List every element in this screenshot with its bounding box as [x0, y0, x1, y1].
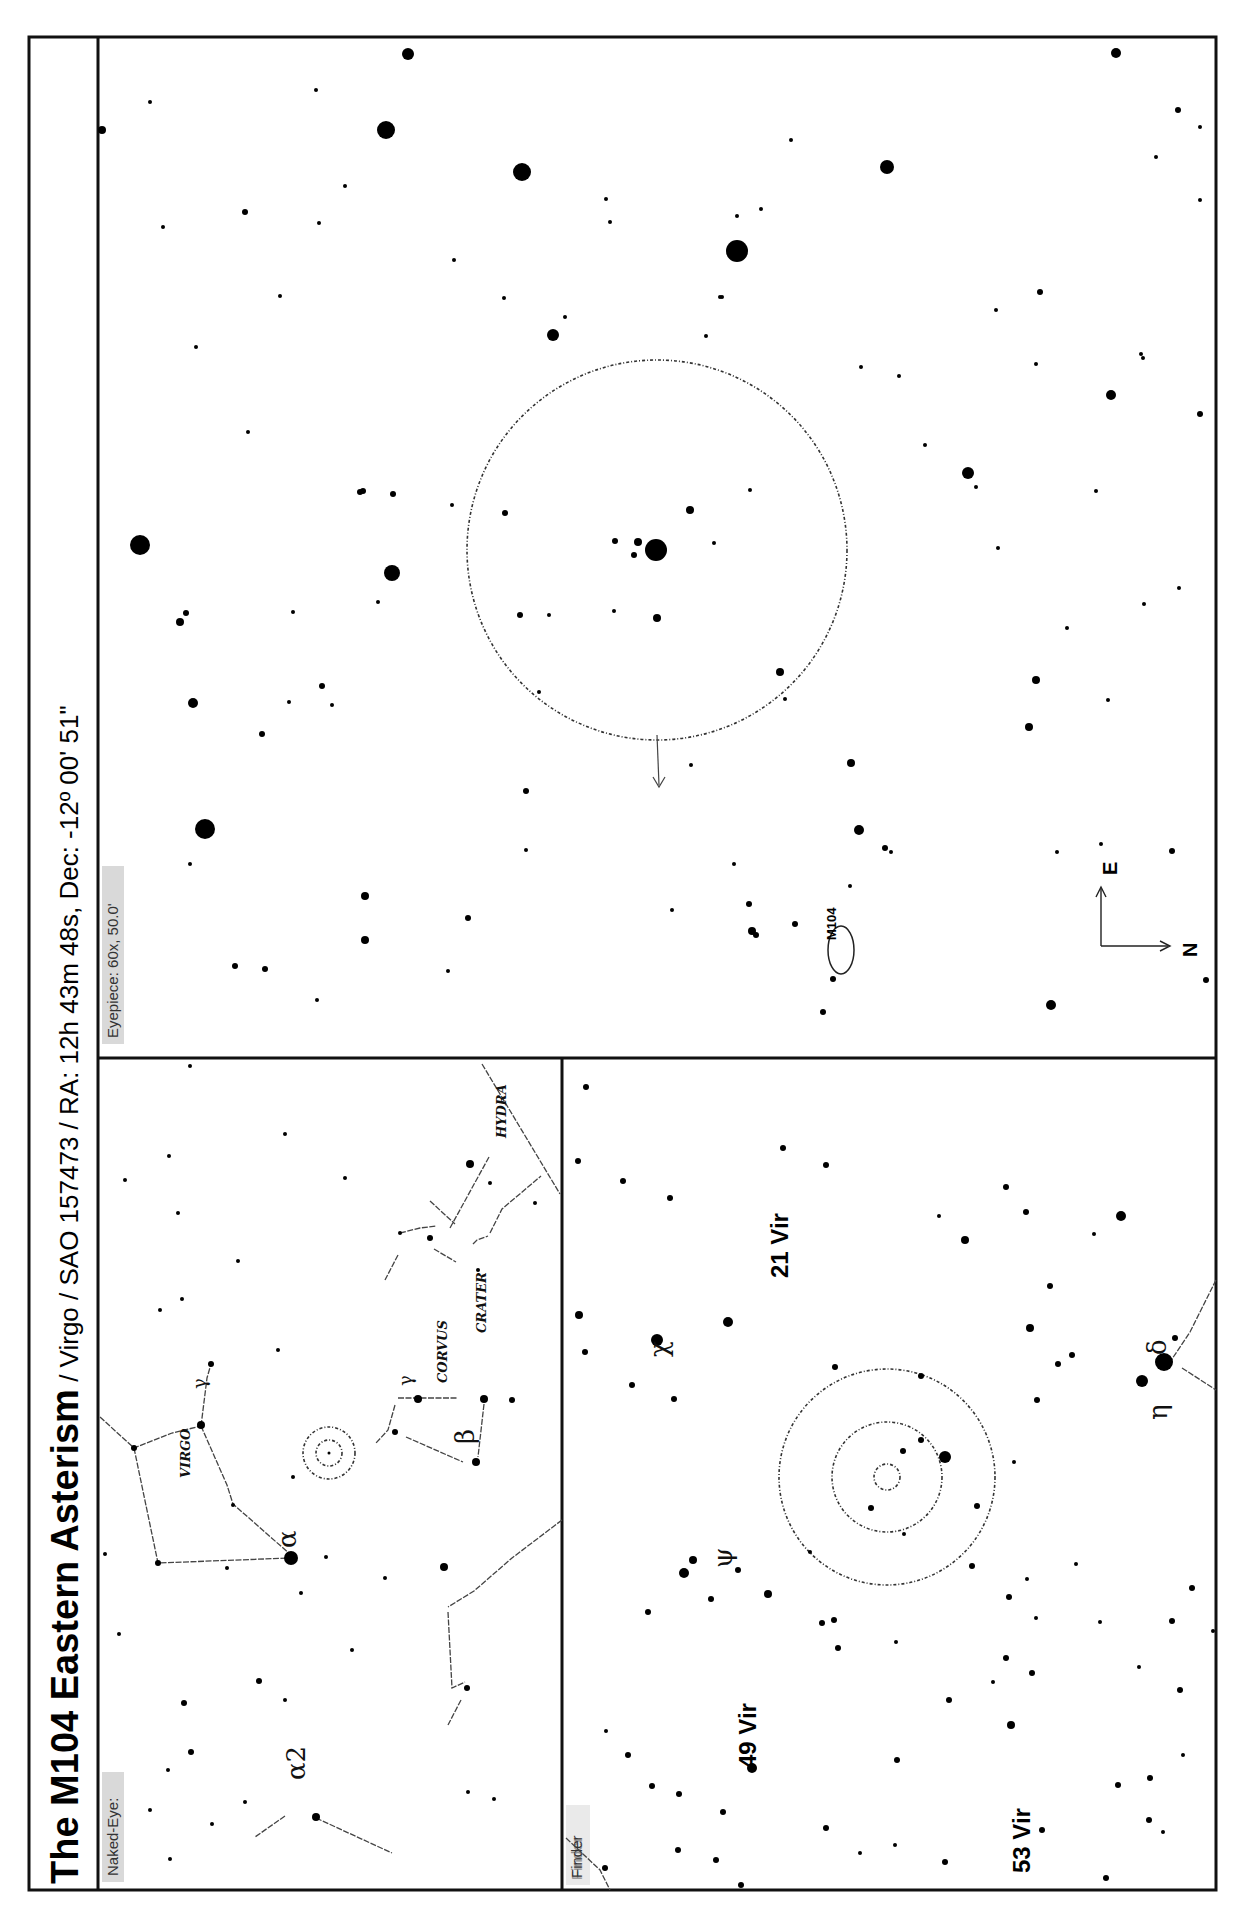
- star-label-53-vir: 53 Vir: [1008, 1808, 1035, 1873]
- eyepiece-label: Eyepiece: 60x, 50.0': [104, 903, 121, 1038]
- finder-middle-circle: [832, 1422, 942, 1532]
- motion-arrow-line: [657, 735, 659, 785]
- svg-text:The M104 Eastern Asterism / Vi: The M104 Eastern Asterism / Virgo / SAO …: [44, 705, 86, 1884]
- eyepiece-label-group: Eyepiece: 60x, 50.0': [102, 866, 124, 1044]
- star-label-chi: χ: [644, 1341, 674, 1357]
- hydra-label-group: HYDRA: [494, 1084, 509, 1139]
- star-label-eta: η: [1143, 1404, 1173, 1420]
- delta-label-group: δ: [1142, 1339, 1172, 1355]
- constellation-label-crater: CRATER: [474, 1272, 489, 1333]
- naked-eye-panel: Naked-Eye:: [100, 1064, 562, 1882]
- alpha-label-group: α: [272, 1530, 302, 1548]
- crater-label-group: CRATER: [474, 1272, 489, 1333]
- m104-label-group: M104: [824, 907, 839, 940]
- compass-icon: E N: [1096, 862, 1201, 957]
- 21-vir-label-group: 21 Vir: [766, 1213, 793, 1278]
- finder-panel: Finder Finder: [566, 1084, 1216, 1890]
- virgo-constellation-lines: [100, 1364, 392, 1853]
- outer-frame: [29, 37, 1216, 1890]
- title-details: / Virgo / SAO 157473 / RA: 12h 43m 48s, …: [54, 705, 84, 1389]
- star-label-delta: δ: [1142, 1339, 1172, 1355]
- finder-inner-circle: [874, 1464, 900, 1490]
- constellation-label-hydra: HYDRA: [494, 1084, 509, 1139]
- star-label-psi: ψ: [708, 1548, 738, 1568]
- star-label-49-vir: 49 Vir: [734, 1703, 761, 1768]
- star-label-beta: β: [450, 1429, 480, 1444]
- compass-east-label: E: [1099, 862, 1121, 875]
- star-label-gamma-virgo: γ: [189, 1378, 210, 1389]
- compass-north-label: N: [1179, 943, 1201, 957]
- naked-eye-label: Naked-Eye:: [104, 1798, 121, 1876]
- star-chart: The M104 Eastern Asterism / Virgo / SAO …: [0, 0, 1256, 1906]
- star-label-21-vir: 21 Vir: [766, 1213, 793, 1278]
- star-label-alpha: α: [272, 1530, 302, 1548]
- psi-label-group: ψ: [708, 1548, 738, 1568]
- m104-label: M104: [824, 907, 839, 940]
- star-label-gamma-corvus: γ: [395, 1375, 416, 1386]
- 53-vir-label-group: 53 Vir: [1008, 1808, 1035, 1873]
- gamma-corvus-label-group: γ: [395, 1375, 416, 1386]
- 49-vir-label-group: 49 Vir: [734, 1703, 761, 1768]
- eta-label-group: η: [1143, 1404, 1173, 1420]
- finder-stars: [575, 1084, 1215, 1888]
- eyepiece-stars: [98, 48, 1209, 1015]
- finder-constellation-line: [1182, 1368, 1216, 1390]
- constellation-label-corvus: CORVUS: [435, 1320, 450, 1383]
- naked-eye-stars: [103, 1064, 537, 1861]
- corvus-label-group: CORVUS: [435, 1320, 450, 1383]
- finder-constellation-line: [1170, 1280, 1216, 1362]
- virgo-label-group: VIRGO: [178, 1428, 193, 1478]
- chi-label-group: χ: [644, 1341, 674, 1357]
- star-label-alpha2: α2: [281, 1746, 311, 1780]
- constellation-label-virgo: VIRGO: [178, 1428, 193, 1478]
- alpha2-label-group: α2: [281, 1746, 311, 1780]
- eyepiece-panel: Eyepiece: 60x, 50.0': [98, 48, 1209, 1044]
- naked-eye-label-group: Naked-Eye:: [102, 1772, 124, 1882]
- beta-label-group: β: [450, 1429, 480, 1444]
- gamma-virgo-label-group: γ: [189, 1378, 210, 1389]
- title-main: The M104 Eastern Asterism: [44, 1389, 86, 1884]
- chart-title: The M104 Eastern Asterism / Virgo / SAO …: [44, 705, 86, 1884]
